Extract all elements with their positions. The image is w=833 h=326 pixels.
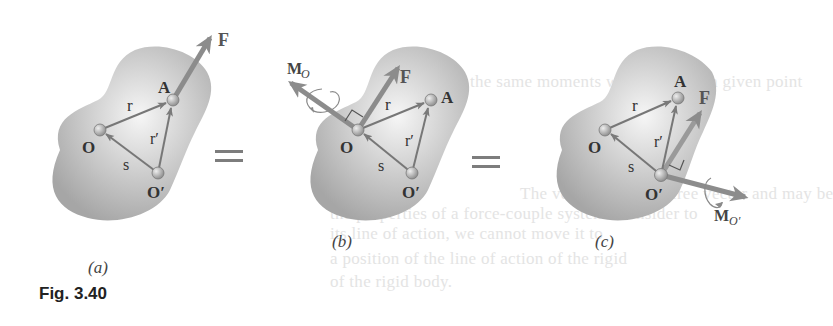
- label-r-prime: r′: [654, 133, 663, 151]
- label-M: M: [714, 207, 729, 225]
- subfigure-caption-b: (b): [332, 232, 352, 252]
- label-A: A: [674, 72, 686, 92]
- label-r: r: [632, 96, 638, 116]
- label-s: s: [378, 157, 384, 175]
- label-O: O: [588, 138, 601, 158]
- label-O: O: [82, 138, 95, 158]
- point-O: [94, 124, 106, 136]
- label-O-prime: O′: [147, 183, 165, 203]
- point-A: [425, 94, 437, 106]
- subfigure-caption-a: (a): [88, 258, 108, 278]
- label-r-prime: r′: [150, 130, 159, 148]
- panel-b: [291, 46, 469, 220]
- label-M-subscript: O: [301, 67, 310, 82]
- label-F: F: [699, 88, 710, 109]
- subfigure-caption-c: (c): [595, 232, 614, 252]
- label-O-prime: O′: [402, 183, 420, 203]
- rigid-body: [557, 46, 717, 220]
- label-M-subscript: O′: [729, 214, 740, 229]
- label-r: r: [127, 96, 133, 116]
- label-r: r: [385, 95, 391, 115]
- label-s: s: [123, 156, 129, 174]
- point-O-prime: [406, 167, 418, 179]
- panel-a: [52, 38, 211, 220]
- label-M: M: [287, 60, 302, 78]
- label-s: s: [628, 158, 634, 176]
- point-O: [599, 124, 611, 136]
- label-O-prime: O′: [645, 185, 663, 205]
- label-F: F: [400, 67, 411, 88]
- point-A: [672, 92, 684, 104]
- point-O: [352, 124, 364, 136]
- label-O: O: [340, 138, 353, 158]
- label-F: F: [218, 30, 229, 51]
- moment-curl-arrowhead: [310, 107, 314, 113]
- point-O-prime: [152, 167, 164, 179]
- equals-sign: [472, 156, 500, 169]
- label-A: A: [441, 88, 453, 108]
- point-O-prime: [655, 169, 668, 182]
- label-r-prime: r′: [405, 132, 414, 150]
- equals-sign: [215, 150, 243, 163]
- rigid-body: [310, 46, 469, 220]
- figure-caption: Fig. 3.40: [39, 284, 107, 304]
- label-A: A: [158, 78, 170, 98]
